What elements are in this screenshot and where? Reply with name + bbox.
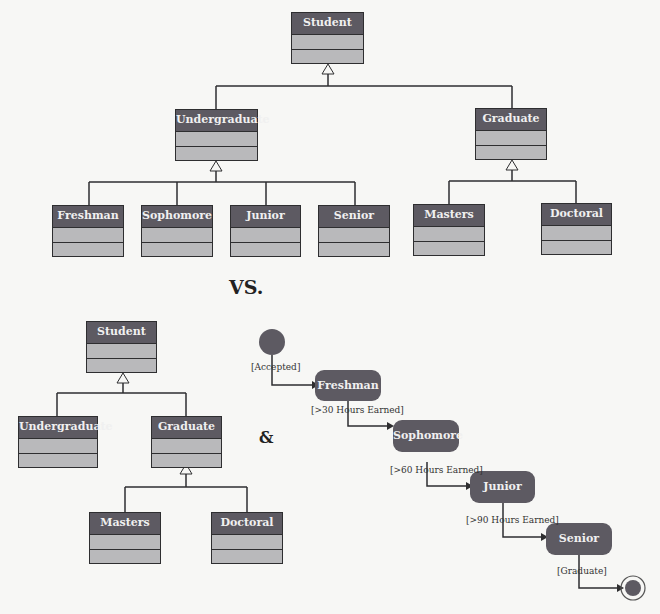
final-state — [625, 580, 641, 596]
class-student: Student — [291, 12, 364, 64]
class-freshman: Freshman — [52, 205, 124, 257]
guard-30-hours: [>30 Hours Earned] — [311, 405, 404, 415]
guard-60-hours: [>60 Hours Earned] — [390, 465, 483, 475]
class-graduate-2: Graduate — [151, 416, 222, 468]
class-masters: Masters — [413, 204, 485, 256]
class-junior: Junior — [230, 205, 301, 257]
class-senior: Senior — [318, 205, 390, 257]
guard-90-hours: [>90 Hours Earned] — [466, 515, 559, 525]
class-doctoral-2: Doctoral — [211, 512, 283, 564]
guard-graduate: [Graduate] — [557, 566, 607, 576]
ampersand-label: & — [259, 428, 273, 447]
class-sophomore: Sophomore — [141, 205, 213, 257]
class-masters-2: Masters — [89, 512, 161, 564]
state-freshman: Freshman — [315, 370, 381, 401]
class-undergraduate-2: Undergraduate — [18, 416, 98, 468]
vs-label: VS. — [229, 276, 263, 298]
class-undergraduate: Undergraduate — [175, 109, 258, 161]
initial-state — [259, 329, 285, 355]
class-student-2: Student — [86, 321, 157, 373]
state-senior: Senior — [546, 523, 612, 555]
class-graduate: Graduate — [475, 108, 547, 160]
state-junior: Junior — [470, 471, 535, 503]
state-sophomore: Sophomore — [393, 420, 459, 452]
class-doctoral: Doctoral — [541, 203, 612, 255]
guard-accepted: [Accepted] — [251, 362, 300, 372]
